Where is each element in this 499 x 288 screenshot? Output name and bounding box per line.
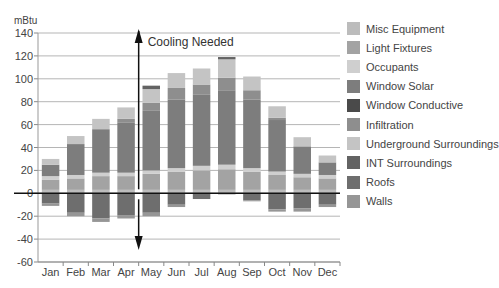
bar-segment [168,168,186,171]
bar-segment [67,213,85,216]
bar-segment [117,173,135,176]
legend-swatch-icon [347,22,360,35]
bar-segment [218,59,236,77]
bar-segment [117,122,135,172]
legend-label: Misc Equipment [366,23,444,35]
y-tick-label: 40 [21,142,33,154]
bar-segment [143,174,161,190]
bar-segment [67,136,85,144]
bar-segment [319,175,337,178]
bar-segment [168,88,186,99]
bar-segment [143,170,161,173]
legend-label: Underground Surroundings [366,138,499,150]
bar-segment [117,215,135,218]
bar-aug [218,57,236,194]
bar-segment [117,176,135,190]
x-tick-label: Dec [318,266,338,278]
legend-item: Infiltration [347,115,499,134]
bar-segment [42,176,60,179]
legend-item: Window Conductive [347,96,499,115]
bar-segment [243,193,261,200]
bar-segment [143,111,161,171]
x-tick-label: Oct [269,266,286,278]
bar-feb [67,136,85,216]
legend-label: Walls [366,195,392,207]
legend: Misc EquipmentLight FixturesOccupantsWin… [347,19,499,211]
bar-segment [117,193,135,215]
bar-segment [168,193,186,204]
bar-segment [319,178,337,189]
bar-segment [143,103,161,111]
legend-label: Infiltration [366,119,414,131]
bar-oct [268,106,286,211]
legend-label: Occupants [366,61,419,73]
bar-segment [294,208,312,211]
bar-segment [218,169,236,190]
bar-segment [42,193,60,203]
y-tick-label: 120 [15,50,33,62]
x-tick-label: Apr [118,266,135,278]
y-tick-label: 60 [21,119,33,131]
bar-segment [92,129,110,173]
bar-segment [294,177,312,190]
bar-segment [243,200,261,201]
legend-swatch-icon [347,41,360,54]
legend-swatch-icon [347,156,360,169]
bar-segment [218,90,236,164]
bar-segment [193,95,211,166]
legend-item: Roofs [347,173,499,192]
legend-item: Walls [347,192,499,211]
bar-segment [143,89,161,103]
bar-segment [143,86,161,89]
bar-sep [243,77,261,202]
y-tick-label: -20 [17,210,33,222]
legend-swatch-icon [347,176,360,189]
bar-segment [92,173,110,176]
bar-segment [294,137,312,146]
bar-segment [92,218,110,221]
bar-jun [168,73,186,207]
bar-segment [193,170,211,189]
bar-segment [67,175,85,178]
legend-item: Underground Surroundings [347,134,499,153]
bar-segment [42,159,60,165]
x-tick-label: Jan [42,266,60,278]
x-tick-label: Nov [292,266,312,278]
legend-swatch-icon [347,80,360,93]
bar-jan [42,159,60,206]
bar-segment [193,166,211,171]
bar-segment [168,99,186,168]
cooling-needed-label: Cooling Needed [148,35,234,49]
bar-segment [218,57,236,59]
x-tick-label: Aug [217,266,237,278]
legend-item: Misc Equipment [347,19,499,38]
bar-segment [268,106,286,117]
bar-segment [268,209,286,211]
bar-segment [193,68,211,84]
legend-item: Light Fixtures [347,38,499,57]
legend-label: INT Surroundings [366,157,452,169]
bar-segment [268,172,286,175]
cooling-needed-arrow [135,29,143,250]
bar-segment [294,146,312,173]
bar-segment [193,193,211,199]
legend-item: INT Surroundings [347,153,499,172]
bar-segment [243,172,261,190]
x-tick-label: Jun [168,266,186,278]
bar-segment [319,193,337,204]
bar-segment [319,162,337,175]
bar-segment [92,176,110,190]
bar-segment [92,119,110,129]
bar-segment [218,78,236,91]
bar-segment [294,193,312,208]
bar-segment [67,178,85,189]
bar-segment [268,120,286,172]
legend-item: Occupants [347,57,499,76]
bar-segment [319,205,337,207]
y-tick-label: 100 [15,73,33,85]
bar-segment [243,90,261,99]
x-tick-label: Jul [195,266,209,278]
bar-may [143,86,161,217]
bar-segment [268,118,286,120]
bar-nov [294,137,312,211]
